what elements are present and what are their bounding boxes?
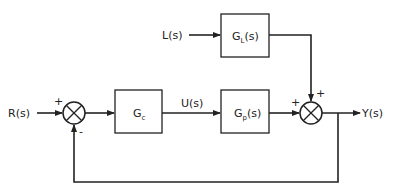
load-output-arrow (269, 35, 311, 101)
controller-output-label: U(s) (181, 97, 203, 110)
load-input-label: L(s) (162, 29, 182, 42)
block-diagram: R(s) + - Gc U(s) Gp(s) + L(s) GL(s) + (0, 0, 397, 193)
process-label: Gp(s) (234, 107, 261, 122)
output-summing-junction (300, 102, 322, 124)
load-block: GL(s) (221, 14, 269, 57)
error-plus-sign: + (54, 95, 63, 108)
output-plus-sign-load: + (316, 87, 325, 100)
output-plus-sign-process: + (291, 96, 300, 109)
feedback-path (74, 113, 338, 182)
process-block: Gp(s) (221, 90, 269, 133)
reference-input-label: R(s) (8, 107, 30, 120)
error-minus-sign: - (79, 125, 83, 138)
load-transfer-label: GL(s) (232, 30, 259, 45)
output-label: Y(s) (361, 107, 383, 120)
controller-block: Gc (115, 90, 162, 133)
error-summing-junction (63, 102, 85, 124)
